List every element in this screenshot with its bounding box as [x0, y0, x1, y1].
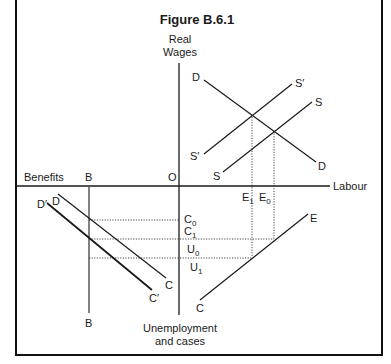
x-axis-left-label: Benefits: [24, 171, 64, 183]
u1-label: U1: [190, 261, 203, 276]
y-axis-top-label-line2: Wages: [163, 46, 197, 58]
dc-shifted-top-label: D′: [37, 198, 47, 210]
dc-top-label: D: [52, 195, 60, 207]
supply-bottom-label: S: [213, 170, 220, 182]
supply-curve: [223, 102, 312, 172]
ce-top-label: E: [310, 212, 317, 224]
e1-label: E1: [242, 191, 254, 206]
demand-top-label: D: [192, 71, 200, 83]
u0-label: U0: [187, 243, 200, 258]
benefit-bottom-label: B: [85, 317, 92, 329]
cases-employment-quadrant: E C: [196, 212, 317, 314]
y-axis-bottom-label-line2: and cases: [155, 335, 206, 347]
supply-shifted-bottom-label: S′: [190, 150, 199, 162]
supply-top-label: S: [315, 96, 322, 108]
figure-diagram: Figure B.6.1 Real Wages Unemployment and…: [0, 0, 391, 364]
dc-shifted-bottom-label: C′: [149, 292, 159, 304]
dc-bottom-label: C: [165, 279, 173, 291]
supply-shifted-top-label: S′: [295, 77, 304, 89]
supply-curve-shifted: [204, 84, 292, 154]
dc-line: [58, 194, 166, 278]
ce-bottom-label: C: [196, 302, 204, 314]
benefits-quadrant: B B D C D′ C′: [37, 171, 173, 329]
x-axis-right-label: Labour: [333, 180, 368, 192]
demand-curve: [204, 80, 316, 162]
ce-line: [200, 214, 308, 300]
labour-market-quadrant: D D S′ S′ S S: [190, 71, 326, 182]
dc-shifted-line: [47, 203, 152, 290]
y-axis-top-label-line1: Real: [169, 33, 192, 45]
origin-label: O: [168, 171, 177, 183]
benefit-top-label: B: [85, 171, 92, 183]
y-axis-bottom-label-line1: Unemployment: [143, 322, 217, 334]
figure-title: Figure B.6.1: [160, 12, 234, 27]
e0-label: E0: [259, 191, 271, 206]
demand-bottom-label: D: [318, 160, 326, 172]
